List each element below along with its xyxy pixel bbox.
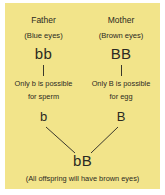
father-gamete-line	[46, 127, 75, 153]
mother-gamete-line	[91, 127, 118, 153]
diagram-panel: Father Mother (Blue eyes) (Brown eyes) b…	[5, 3, 160, 189]
genetics-diagram-page: Father Mother (Blue eyes) (Brown eyes) b…	[0, 0, 165, 195]
offspring-genotype: bB	[5, 153, 160, 168]
offspring-caption: (All offspring will have brown eyes)	[5, 175, 160, 182]
